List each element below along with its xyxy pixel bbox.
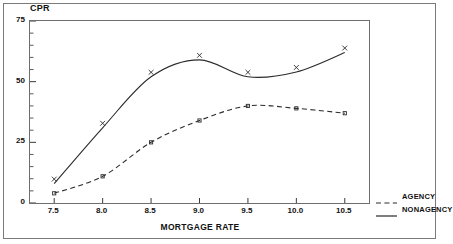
plot-area [29,20,370,204]
legend-solid-line-icon [376,206,397,214]
legend-item: AGENCY [376,190,438,203]
y-axis-tick-label: 75 [3,16,25,24]
x-axis-title: MORTGAGE RATE [0,222,400,232]
legend-label: AGENCY [402,192,435,201]
data-point-nonagency [149,70,154,75]
data-point-nonagency [246,70,251,75]
x-axis-tick-label: 9.0 [184,207,214,215]
y-axis-tick-label: 0 [3,198,25,206]
data-point-nonagency [197,53,202,58]
data-point-nonagency [52,177,57,182]
x-axis-tick-label: 8.5 [135,207,165,215]
plot-svg [30,21,369,203]
x-axis-tick-label: 10.5 [329,207,359,215]
data-point-nonagency [294,65,299,70]
legend-item: NONAGENCY [376,203,438,216]
data-point-nonagency [100,121,105,126]
x-axis-tick-label: 9.5 [232,207,262,215]
legend-dashed-line-icon [376,193,397,201]
series-line-nonagency [54,53,345,184]
x-axis-tick-label: 10.0 [280,207,310,215]
data-point-nonagency [342,46,347,51]
y-axis-title: CPR [30,3,50,14]
y-axis-tick-label: 25 [3,137,25,145]
x-axis-tick-label: 7.5 [38,207,68,215]
legend-label: NONAGENCY [402,205,453,214]
chart-legend: AGENCYNONAGENCY [376,190,438,216]
y-axis-tick-label: 50 [3,77,25,85]
x-axis-tick-label: 8.0 [87,207,117,215]
